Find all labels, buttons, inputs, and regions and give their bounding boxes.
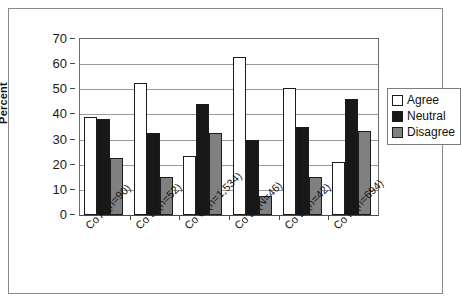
x-axis-tick-mark: [279, 215, 280, 220]
bar-agree: [283, 88, 296, 215]
y-axis-tick-label: 50: [53, 81, 67, 96]
y-axis-tick-mark: [70, 139, 75, 140]
legend-item-agree[interactable]: Agree: [392, 92, 455, 108]
y-axis-tick-label: 60: [53, 56, 67, 71]
x-axis-tick-mark: [328, 215, 329, 220]
x-axis-tick-mark: [179, 215, 180, 220]
y-axis-tick-labels: 010203040506070: [23, 38, 75, 214]
bar-agree: [332, 162, 345, 215]
bar-agree: [134, 83, 147, 215]
bar-agree: [84, 117, 97, 215]
y-axis-tick-mark: [70, 189, 75, 190]
legend-item-label: Agree: [407, 93, 439, 107]
legend-item-label: Neutral: [407, 109, 446, 123]
x-axis-tick-mark: [130, 215, 131, 220]
y-axis-tick-label: 10: [53, 181, 67, 196]
y-axis-tick-mark: [70, 214, 75, 215]
y-axis-tick-label: 0: [60, 207, 67, 222]
y-axis-tick-label: 40: [53, 106, 67, 121]
legend-item-neutral[interactable]: Neutral: [392, 108, 455, 124]
y-axis-tick-mark: [70, 164, 75, 165]
chart-legend: AgreeNeutralDisagree: [387, 88, 461, 145]
y-axis-tick-label: 20: [53, 156, 67, 171]
legend-item-disagree[interactable]: Disagree: [392, 124, 455, 140]
y-axis-tick-mark: [70, 38, 75, 39]
y-axis-tick-mark: [70, 113, 75, 114]
y-axis-tick-mark: [70, 88, 75, 89]
bar-agree: [233, 57, 246, 215]
legend-swatch-agree-icon: [392, 95, 403, 106]
bar-agree: [183, 156, 196, 215]
y-axis-tick-label: 70: [53, 31, 67, 46]
legend-item-label: Disagree: [407, 125, 455, 139]
legend-swatch-neutral-icon: [392, 111, 403, 122]
chart-frame: Percent 010203040506070 Co A (n=90)Co B …: [8, 8, 443, 294]
x-axis-tick-mark: [229, 215, 230, 220]
y-axis-tick-label: 30: [53, 131, 67, 146]
legend-swatch-disagree-icon: [392, 127, 403, 138]
y-axis-title: Percent: [0, 82, 9, 124]
y-axis-tick-mark: [70, 63, 75, 64]
